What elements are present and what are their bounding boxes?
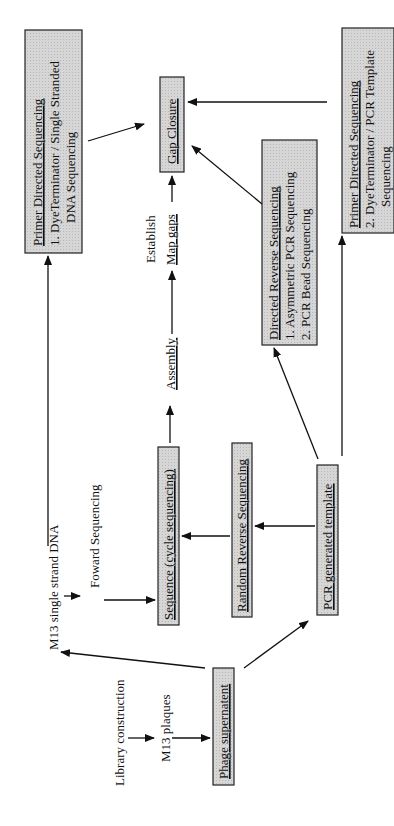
sequence-cycle-box: Sequence (cycle sequencing): [158, 447, 179, 625]
arrow-phage-to-pcr: [244, 621, 308, 668]
directed-reverse-line1: 1. Asymmetric PCR Sequencing: [282, 171, 297, 340]
phage-supernatent-label: Phage supernatent: [216, 684, 231, 779]
primer-directed-pcr-title: Primer Directed Sequencing: [346, 80, 361, 228]
primer-directed-ss-title: Primer Directed Sequencing: [30, 98, 45, 246]
primer-directed-ss-line2: DNA Sequencing: [63, 131, 78, 223]
primer-directed-pcr-line1: 2. DyeTerminator / PCR Template: [362, 50, 377, 228]
phage-supernatent-box: Phage supernatent: [213, 668, 234, 785]
assembly-label: Assembly: [163, 338, 178, 391]
library-construction-label: Library construction: [112, 679, 127, 786]
arrow-primer-ss-to-gapclosure: [88, 124, 144, 141]
directed-reverse-box: Directed Reverse Sequencing 1. Asymmetri…: [262, 140, 317, 345]
flow-diagram: Library construction M13 plaques Phage s…: [0, 0, 394, 826]
arrow-directed-reverse-to-gapclosure: [192, 146, 262, 204]
map-gaps-label: Map gaps: [163, 214, 178, 265]
pcr-template-label: PCR generated template: [320, 483, 335, 610]
arrow-phage-to-m13ss: [61, 652, 205, 668]
gap-closure-label: Gap Closure: [164, 98, 179, 164]
primer-directed-pcr-line2: Sequencing: [378, 146, 393, 207]
sequence-cycle-label: Sequence (cycle sequencing): [161, 469, 176, 620]
foward-sequencing-label: Foward Sequencing: [87, 484, 102, 588]
primer-directed-ss-box: Primer Directed Sequencing 1. DyeTermina…: [25, 30, 82, 253]
diagram-canvas: Library construction M13 plaques Phage s…: [0, 0, 394, 826]
establish-label: Establish: [143, 215, 158, 263]
primer-directed-ss-line1: 1. DyeTerminator / Single Stranded: [47, 60, 62, 246]
primer-directed-pcr-box: Primer Directed Sequencing 2. DyeTermina…: [342, 28, 394, 233]
pcr-template-box: PCR generated template: [317, 465, 338, 615]
arrow-pcr-to-directed-reverse: [274, 348, 318, 459]
directed-reverse-title: Directed Reverse Sequencing: [266, 186, 281, 340]
gap-closure-box: Gap Closure: [160, 77, 184, 172]
random-reverse-label: Random Reverse Sequencing: [234, 458, 249, 612]
random-reverse-box: Random Reverse Sequencing: [232, 443, 252, 617]
m13-plaques-label: M13 plaques: [158, 694, 173, 762]
directed-reverse-line2: 2. PCR Bead Sequencing: [298, 208, 313, 340]
